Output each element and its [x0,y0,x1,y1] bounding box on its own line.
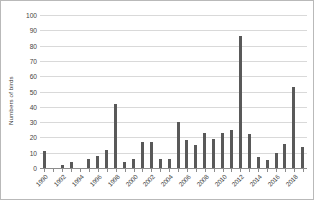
plot-area [40,15,307,168]
y-tick-50: 50 [30,88,37,95]
bar-2008 [203,133,206,168]
x-label-slot-1990: 1990 [40,172,49,200]
x-label-slot-2014: 2014 [254,172,263,200]
y-tick-20: 20 [30,134,37,141]
bar-slot-1990 [40,15,49,168]
bar-2004 [168,159,171,168]
y-axis-tick-labels: 0102030405060708090100 [15,1,39,200]
x-label-slot-2016: 2016 [272,172,281,200]
x-label-slot-2019 [298,172,307,200]
bar-slot-2000 [129,15,138,168]
x-label-slot-2000: 2000 [129,172,138,200]
x-label-slot-2018: 2018 [289,172,298,200]
bar-2002 [150,142,153,168]
bar-slot-2019 [298,15,307,168]
x-label-slot-2012: 2012 [236,172,245,200]
x-axis-tick-labels: 1990199219941996199820002002200420062008… [40,172,307,200]
bar-chart: Numbers of birds 0102030405060708090100 … [0,0,314,200]
x-label-slot-2006: 2006 [183,172,192,200]
bar-slot-2008 [200,15,209,168]
bar-1995 [87,159,90,168]
bar-2013 [248,134,251,168]
bar-2016 [275,153,278,168]
bar-slot-2016 [272,15,281,168]
bar-1990 [43,151,46,168]
bar-2018 [292,87,295,168]
bar-2015 [266,160,269,168]
bar-2000 [132,159,135,168]
x-label-slot-2010: 2010 [218,172,227,200]
y-tick-80: 80 [30,42,37,49]
x-label-slot-2004: 2004 [165,172,174,200]
bar-2011 [230,130,233,168]
bar-slot-1999 [120,15,129,168]
bar-slot-2006 [183,15,192,168]
y-tick-40: 40 [30,103,37,110]
y-tick-0: 0 [33,165,37,172]
bar-slot-1991 [49,15,58,168]
y-tick-10: 10 [30,149,37,156]
bar-slot-2004 [165,15,174,168]
bar-slot-2011 [227,15,236,168]
bar-series [40,15,307,168]
bar-slot-2012 [236,15,245,168]
bar-slot-1994 [76,15,85,168]
bar-slot-2005 [174,15,183,168]
bar-2014 [257,157,260,168]
bar-2017 [283,144,286,168]
bar-2003 [159,159,162,168]
bar-slot-2014 [254,15,263,168]
x-label-slot-1992: 1992 [58,172,67,200]
bar-2019 [301,147,304,168]
bar-slot-1996 [93,15,102,168]
bar-slot-1993 [67,15,76,168]
bar-2010 [221,133,224,168]
bar-1996 [96,156,99,168]
bar-1997 [105,150,108,168]
bar-slot-2018 [289,15,298,168]
bar-2009 [212,139,215,168]
bar-slot-1997 [102,15,111,168]
x-label-slot-1998: 1998 [111,172,120,200]
bar-slot-1998 [111,15,120,168]
bar-slot-2010 [218,15,227,168]
bar-slot-2013 [245,15,254,168]
bar-2001 [141,142,144,168]
bar-slot-2001 [138,15,147,168]
bar-2012 [239,36,242,168]
bar-2007 [194,145,197,168]
bar-slot-1995 [85,15,94,168]
bar-slot-2009 [209,15,218,168]
bar-slot-1992 [58,15,67,168]
bar-1998 [114,104,117,168]
bar-slot-2002 [147,15,156,168]
y-tick-70: 70 [30,57,37,64]
y-tick-60: 60 [30,73,37,80]
bar-slot-2007 [191,15,200,168]
x-label-slot-2008: 2008 [200,172,209,200]
y-tick-90: 90 [30,27,37,34]
bar-2006 [185,140,188,168]
y-tick-100: 100 [26,12,37,19]
x-label-slot-1994: 1994 [76,172,85,200]
bar-slot-2003 [156,15,165,168]
bar-slot-2015 [263,15,272,168]
bar-slot-2017 [280,15,289,168]
x-label-slot-1996: 1996 [93,172,102,200]
y-tick-30: 30 [30,119,37,126]
bar-2005 [177,122,180,168]
x-label-slot-2002: 2002 [147,172,156,200]
